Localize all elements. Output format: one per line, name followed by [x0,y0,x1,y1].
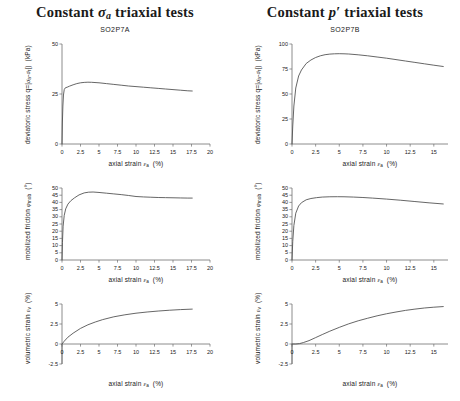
y-tick-label: 0 [32,257,58,263]
chart-left-volumetric-strain: -2.502.5502.557.51012.51517.520volumetri… [0,300,230,401]
x-tick-label: 7.5 [351,349,375,355]
y-tick-label: 10 [32,242,58,248]
y-tick-label: 50 [262,91,288,97]
x-tick-label: 15 [422,349,446,355]
title-suffix-right: triaxial tests [344,4,423,20]
title-prefix-right: Constant [267,4,325,20]
y-tick-label: 25 [32,91,58,97]
x-tick-label: 10 [375,265,399,271]
x-tick-label: 12.5 [398,349,422,355]
y-tick-label: 30 [32,213,58,219]
title-symbol-sub-left: a [106,10,111,21]
x-tick-label: 15 [422,149,446,155]
x-tick-label: 5 [327,265,351,271]
y-tick-label: 45 [262,192,288,198]
y-tick-label: 30 [262,213,288,219]
figure-root: Constant σa triaxial tests SO2P7A 025500… [0,0,460,401]
y-tick-label: 35 [262,206,288,212]
y-axis-label: deviatoric stress q=|σa-σr|) (kPa) [24,45,32,144]
x-tick-label: 2.5 [304,265,328,271]
x-tick-label: 20 [198,265,222,271]
y-tick-label: 50 [32,185,58,191]
y-tick-label: 45 [32,192,58,198]
x-tick-label: 0 [280,149,304,155]
right-mobilized-friction-series [292,197,443,260]
y-tick-label: 20 [262,228,288,234]
y-tick-label: 25 [262,221,288,227]
y-tick-label: 2.5 [32,321,58,327]
x-tick-label: 12.5 [398,265,422,271]
left-deviatoric-stress-series [62,82,192,144]
sample-id-left: SO2P7A [0,26,230,33]
x-tick-label: 7.5 [351,265,375,271]
y-axis-label: volumetric strain εv (%) [254,292,262,364]
x-axis-label: axial strain εa (%) [292,276,448,284]
figure-title-left: Constant σa triaxial tests [0,4,230,21]
x-tick-label: 20 [198,149,222,155]
figure-title-right: Constant p′ triaxial tests [230,4,460,21]
y-axis-label: mobilized friction φmob (°) [254,182,262,260]
y-tick-label: 0 [262,341,288,347]
y-tick-label: 10 [262,242,288,248]
x-tick-label: 20 [198,349,222,355]
y-tick-label: 35 [32,206,58,212]
y-tick-label: 5 [262,249,288,255]
chart-right-volumetric-strain: -2.502.5502.557.51012.515volumetric stra… [230,300,460,401]
title-suffix-left: triaxial tests [115,4,194,20]
x-tick-label: 7.5 [351,149,375,155]
x-tick-label: 0 [280,265,304,271]
x-tick-label: 12.5 [398,149,422,155]
title-symbol-left: σ [98,4,106,20]
y-tick-label: 50 [262,185,288,191]
column-left: Constant σa triaxial tests SO2P7A 025500… [0,0,230,401]
y-tick-label: -2.5 [262,361,288,367]
title-symbol-right: p′ [329,4,341,20]
y-tick-label: 5 [262,301,288,307]
left-mobilized-friction-series [62,192,192,260]
x-tick-label: 5 [327,149,351,155]
y-axis-label: mobilized friction φmob (°) [24,182,32,260]
x-tick-label: 15 [422,265,446,271]
x-tick-label: 10 [375,349,399,355]
right-deviatoric-stress-series [292,54,443,144]
x-axis-label: axial strain εa (%) [62,160,210,168]
y-axis-label: volumetric strain εv (%) [24,292,32,364]
y-tick-label: 40 [262,199,288,205]
chart-left-mobilized-friction: 0510152025303540455002.557.51012.51517.5… [0,184,230,300]
y-tick-label: 5 [32,249,58,255]
y-tick-label: 25 [32,221,58,227]
y-tick-label: 0 [262,141,288,147]
y-tick-label: 0 [32,141,58,147]
x-axis-label: axial strain εa (%) [62,380,210,388]
y-tick-label: 5 [32,301,58,307]
right-volumetric-strain-series [292,307,443,344]
chart-left-deviatoric-stress: 0255002.557.51012.51517.520deviatoric st… [0,36,230,184]
chart-right-deviatoric-stress: 025507510002.557.51012.515deviatoric str… [230,36,460,184]
x-axis-label: axial strain εa (%) [292,380,448,388]
y-tick-label: 50 [32,41,58,47]
y-tick-label: 25 [262,116,288,122]
y-tick-label: -2.5 [32,361,58,367]
x-tick-label: 2.5 [304,149,328,155]
y-tick-label: 0 [32,341,58,347]
y-tick-label: 100 [262,41,288,47]
column-right: Constant p′ triaxial tests SO2P7B 025507… [230,0,460,401]
y-tick-label: 0 [262,257,288,263]
y-tick-label: 2.5 [262,321,288,327]
y-tick-label: 15 [32,235,58,241]
x-tick-label: 10 [375,149,399,155]
sample-id-right: SO2P7B [230,26,460,33]
y-tick-label: 15 [262,235,288,241]
left-volumetric-strain-series [62,309,192,344]
x-axis-label: axial strain εa (%) [62,276,210,284]
y-tick-label: 40 [32,199,58,205]
x-tick-label: 5 [327,349,351,355]
x-tick-label: 0 [280,349,304,355]
y-tick-label: 20 [32,228,58,234]
title-prefix-left: Constant [36,4,94,20]
x-axis-label: axial strain εa (%) [292,160,448,168]
y-axis-label: deviatoric stress q=|σa-σr|) (kPa) [254,45,262,144]
chart-right-mobilized-friction: 0510152025303540455002.557.51012.515mobi… [230,184,460,300]
y-tick-label: 75 [262,66,288,72]
x-tick-label: 2.5 [304,349,328,355]
